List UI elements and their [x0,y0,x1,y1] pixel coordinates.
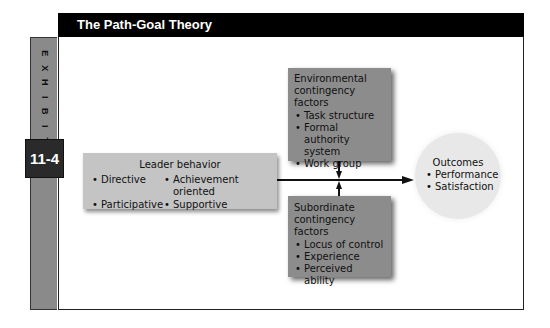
arrow-up-icon [336,181,342,189]
leader-behavior-item: Directive [91,174,163,186]
environmental-factors-box: Environmental contingency factors Task s… [288,68,391,161]
subordinate-title-line1: Subordinate [294,202,385,214]
outcomes-title: Outcomes [425,157,501,169]
subordinate-item: Experience [294,251,385,263]
arrow-down-icon [336,171,342,179]
environmental-title-line2: contingency factors [294,85,385,109]
leader-behavior-item: Participative [91,199,163,211]
arrow-to-outcomes-icon [402,176,414,184]
outcomes-circle: Outcomes Performance Satisfaction [415,133,501,219]
leader-behavior-item: Achievement oriented [163,174,269,198]
environmental-title-line1: Environmental [294,73,385,85]
leader-behavior-box: Leader behavior Directive Achievement or… [83,153,277,209]
environmental-item: Task structure [294,110,385,122]
exhibit-header: The Path-Goal Theory [58,13,524,37]
environmental-item: Work group [294,158,385,170]
subordinate-factors-box: Subordinate contingency factors Locus of… [288,196,391,277]
outcome-item: Satisfaction [425,181,501,193]
leader-behavior-title: Leader behavior [91,159,269,171]
environmental-item: Formal authority system [294,122,385,158]
subordinate-item: Locus of control [294,239,385,251]
exhibit-number-badge: 11-4 [25,139,64,178]
exhibit-label: E X H I B I T [31,46,58,148]
leader-behavior-item: Supportive [163,199,269,211]
subordinate-item: Perceived ability [294,263,385,287]
exhibit-title: The Path-Goal Theory [77,17,212,32]
subordinate-title-line2: contingency factors [294,214,385,238]
outcome-item: Performance [425,169,501,181]
